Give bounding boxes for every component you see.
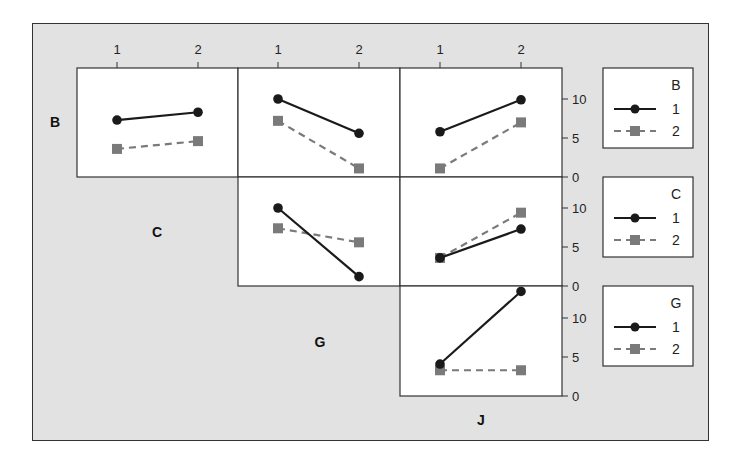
- square-marker-icon: [516, 365, 526, 375]
- legend-item: 2: [672, 341, 680, 357]
- panel-C-G: [238, 177, 400, 286]
- panel-C-J: [400, 177, 562, 286]
- circle-marker-icon: [516, 224, 526, 234]
- panel-B-J: [400, 68, 562, 177]
- legend-title: G: [671, 295, 682, 311]
- x-tick-label: 1: [113, 42, 120, 57]
- circle-marker-icon: [631, 323, 640, 332]
- circle-marker-icon: [193, 107, 203, 117]
- x-tick-label: 2: [194, 42, 201, 57]
- legend-title: B: [671, 77, 680, 93]
- factor-label-B: B: [50, 114, 60, 130]
- x-tick-label: 2: [355, 42, 362, 57]
- circle-marker-icon: [516, 287, 526, 297]
- circle-marker-icon: [273, 94, 283, 104]
- factor-label-C: C: [152, 224, 162, 240]
- y-tick-label: 5: [572, 350, 579, 365]
- square-marker-icon: [630, 126, 640, 136]
- circle-marker-icon: [631, 214, 640, 223]
- y-tick-label: 0: [572, 279, 579, 294]
- circle-marker-icon: [435, 253, 445, 263]
- square-marker-icon: [112, 144, 122, 154]
- legend-item: 1: [672, 101, 680, 117]
- circle-marker-icon: [273, 203, 283, 213]
- square-marker-icon: [630, 344, 640, 354]
- legend-B: B12: [603, 68, 693, 148]
- legend-item: 1: [672, 319, 680, 335]
- circle-marker-icon: [354, 272, 364, 282]
- circle-marker-icon: [435, 359, 445, 369]
- panel-B-G: [238, 68, 400, 177]
- circle-marker-icon: [516, 95, 526, 105]
- square-marker-icon: [273, 223, 283, 233]
- square-marker-icon: [354, 237, 364, 247]
- circle-marker-icon: [435, 127, 445, 137]
- circle-marker-icon: [354, 129, 364, 139]
- square-marker-icon: [193, 136, 203, 146]
- y-tick-label: 5: [572, 131, 579, 146]
- panel-B-C: [77, 68, 238, 177]
- square-marker-icon: [516, 117, 526, 127]
- interaction-plot-matrix: 121212051005100510BCGJB12C12G12: [0, 0, 731, 468]
- square-marker-icon: [435, 163, 445, 173]
- y-tick-label: 0: [572, 170, 579, 185]
- panel-G-J: [400, 286, 562, 396]
- square-marker-icon: [273, 116, 283, 126]
- legend-item: 2: [672, 123, 680, 139]
- legend-title: C: [671, 186, 681, 202]
- y-tick-label: 10: [572, 201, 586, 216]
- legend-item: 1: [672, 210, 680, 226]
- square-marker-icon: [630, 235, 640, 245]
- circle-marker-icon: [112, 115, 122, 125]
- y-tick-label: 10: [572, 311, 586, 326]
- factor-label-J: J: [477, 412, 485, 428]
- square-marker-icon: [516, 208, 526, 218]
- circle-marker-icon: [631, 105, 640, 114]
- y-tick-label: 5: [572, 240, 579, 255]
- factor-label-G: G: [315, 334, 326, 350]
- x-tick-label: 1: [274, 42, 281, 57]
- y-tick-label: 0: [572, 389, 579, 404]
- legend-G: G12: [603, 286, 693, 366]
- square-marker-icon: [354, 163, 364, 173]
- legend-item: 2: [672, 232, 680, 248]
- x-tick-label: 1: [436, 42, 443, 57]
- legend-C: C12: [603, 177, 693, 257]
- x-tick-label: 2: [517, 42, 524, 57]
- y-tick-label: 10: [572, 92, 586, 107]
